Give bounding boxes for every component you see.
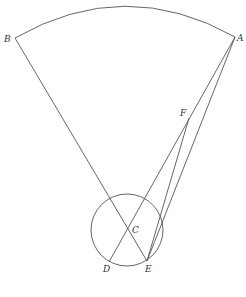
- label-b: B: [3, 34, 11, 44]
- arc-ba: [15, 6, 235, 38]
- segment-fe: [147, 118, 189, 261]
- segment-ae: [147, 37, 235, 261]
- label-f: F: [179, 108, 187, 118]
- label-c: C: [132, 225, 139, 235]
- segment-be: [15, 38, 147, 261]
- segment-ad: [109, 37, 235, 262]
- label-e: E: [144, 264, 152, 274]
- label-d: D: [102, 264, 110, 274]
- label-a: A: [236, 33, 244, 43]
- geometry-diagram: B A F C D E: [0, 0, 246, 297]
